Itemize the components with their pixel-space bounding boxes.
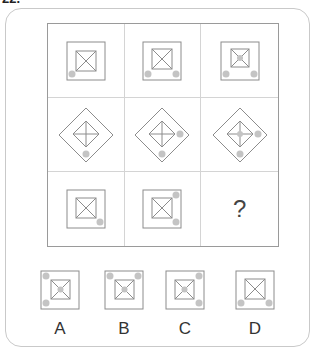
grid-cell-r3c2 <box>125 172 202 246</box>
square-x-figure-icon <box>66 41 106 81</box>
grid-cell-r2c3 <box>201 98 278 172</box>
diamond-cross-figure-icon <box>211 106 269 164</box>
option-label: B <box>102 320 146 338</box>
grid-cell-r1c3 <box>201 24 278 98</box>
question-mark: ? <box>233 195 246 223</box>
square-x-figure-icon <box>104 270 144 310</box>
square-x-figure-icon <box>165 270 205 310</box>
square-x-figure-icon <box>66 189 106 229</box>
option-label: A <box>38 320 82 338</box>
question-number: 22. <box>2 0 20 6</box>
grid-cell-r3c3-missing: ? <box>201 172 278 246</box>
option-label: D <box>233 320 277 338</box>
diamond-cross-figure-icon <box>57 106 115 164</box>
answer-options: A B C D <box>0 270 317 340</box>
option-c[interactable]: C <box>163 270 207 338</box>
option-a[interactable]: A <box>38 270 82 338</box>
square-x-figure-icon <box>235 270 275 310</box>
square-x-figure-icon <box>142 189 182 229</box>
option-d[interactable]: D <box>233 270 277 338</box>
grid-cell-r2c1 <box>48 98 125 172</box>
option-b[interactable]: B <box>102 270 146 338</box>
grid-cell-r1c1 <box>48 24 125 98</box>
diamond-cross-figure-icon <box>133 106 191 164</box>
grid-cell-r2c2 <box>125 98 202 172</box>
grid-cell-r1c2 <box>125 24 202 98</box>
grid-cell-r3c1 <box>48 172 125 246</box>
square-x-figure-icon <box>220 41 260 81</box>
option-label: C <box>163 320 207 338</box>
square-x-figure-icon <box>142 41 182 81</box>
square-x-figure-icon <box>40 270 80 310</box>
puzzle-grid: ? <box>47 23 279 247</box>
